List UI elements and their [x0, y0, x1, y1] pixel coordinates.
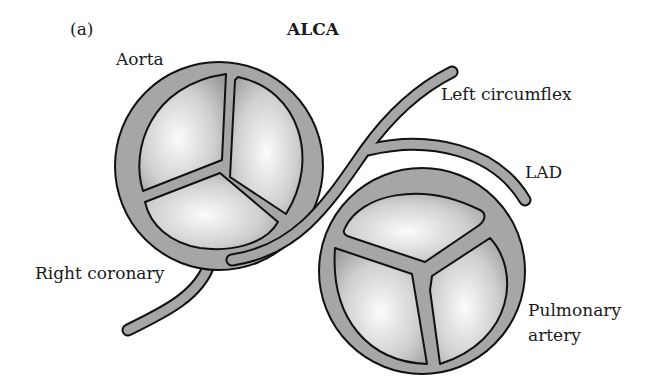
- panel-label: (a): [70, 20, 93, 40]
- label-right-coronary: Right coronary: [35, 264, 164, 284]
- pulmonary-valve: [319, 168, 525, 374]
- label-pulmonary-line1: Pulmonary: [528, 301, 621, 321]
- label-left-circumflex: Left circumflex: [441, 85, 572, 105]
- label-aorta: Aorta: [116, 50, 164, 70]
- alca-diagram: (a) ALCA Aorta Left circumflex LAD Right…: [0, 0, 657, 389]
- label-pulmonary-line2: artery: [528, 326, 581, 346]
- label-lad: LAD: [525, 163, 562, 183]
- figure-title: ALCA: [287, 20, 339, 40]
